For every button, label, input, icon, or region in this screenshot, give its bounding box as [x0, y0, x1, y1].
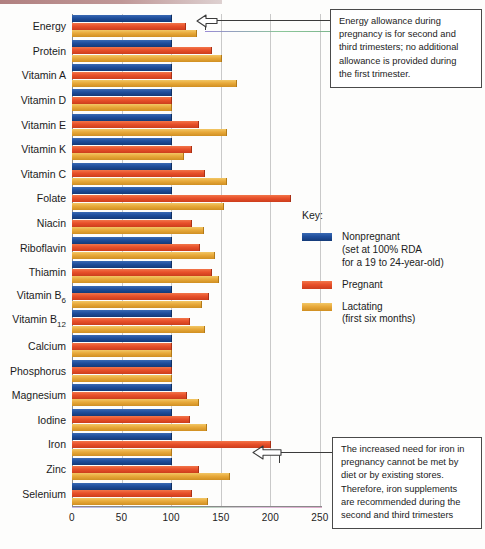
bar-lactating-calcium: [72, 350, 172, 357]
legend-item-lactating[interactable]: Lactating(first six months): [302, 301, 444, 327]
legend-swatch-lactating: [302, 303, 332, 311]
energy-annotation-note: Energy allowance during pregnancy is for…: [330, 9, 482, 88]
legend-item-pregnant[interactable]: Pregnant: [302, 279, 444, 292]
bar-row: Niacin: [72, 211, 320, 236]
bar-row: Phosphorus: [72, 358, 320, 383]
bar-nonpregnant-vitamin-b6: [72, 286, 172, 293]
row-label-vitamin-k: Vitamin K: [21, 143, 66, 155]
x-tick-label-50: 50: [116, 512, 128, 523]
bar-row: Zinc: [72, 457, 320, 482]
iron-note-line-6: second and third trimesters: [341, 509, 474, 522]
bar-pregnant-folate: [72, 195, 291, 202]
bar-pregnant-niacin: [72, 220, 192, 227]
bar-row: Vitamin C: [72, 162, 320, 187]
x-tick-label-200: 200: [262, 512, 279, 523]
energy-note-line-3: third trimesters; no additional: [339, 41, 474, 54]
iron-leader-line: [279, 452, 333, 453]
x-tick-label-0: 0: [69, 512, 75, 523]
row-label-iodine: Iodine: [37, 414, 66, 426]
bar-lactating-phosphorus: [72, 375, 172, 382]
bar-pregnant-magnesium: [72, 392, 187, 399]
bar-row: Vitamin D: [72, 88, 320, 113]
bar-lactating-vitamin-k: [72, 153, 184, 160]
bar-row: Vitamin A: [72, 63, 320, 88]
energy-note-line-2: pregnancy is for second and: [339, 28, 474, 41]
bar-nonpregnant-vitamin-k: [72, 138, 172, 145]
bar-pregnant-thiamin: [72, 269, 212, 276]
bar-lactating-vitamin-d: [72, 104, 172, 111]
bar-nonpregnant-vitamin-a: [72, 64, 172, 71]
x-tick-label-250: 250: [311, 512, 328, 523]
bar-lactating-selenium: [72, 498, 208, 505]
row-label-vitamin-c: Vitamin C: [21, 168, 66, 180]
bar-nonpregnant-iodine: [72, 409, 172, 416]
iron-note-line-2: pregnancy cannot be met by: [341, 456, 474, 469]
energy-note-line-1: Energy allowance during: [339, 15, 474, 28]
bar-lactating-protein: [72, 55, 222, 62]
bar-row: Vitamin B12: [72, 309, 320, 334]
bar-lactating-iron: [72, 449, 172, 456]
bar-nonpregnant-niacin: [72, 212, 172, 219]
bar-lactating-folate: [72, 203, 224, 210]
row-label-energy: Energy: [33, 20, 66, 32]
bar-pregnant-iodine: [72, 416, 190, 423]
row-label-folate: Folate: [37, 192, 66, 204]
legend-sublabel-nonpregnant-2: for a 19 to 24-year-old): [342, 257, 444, 270]
row-label-protein: Protein: [33, 45, 66, 57]
bar-row: Iodine: [72, 408, 320, 433]
bar-pregnant-vitamin-c: [72, 170, 205, 177]
bar-nonpregnant-phosphorus: [72, 360, 172, 367]
chart-page: EnergyProteinVitamin AVitamin DVitamin E…: [0, 0, 485, 549]
energy-note-line-5: the first trimester.: [339, 68, 474, 81]
iron-note-line-3: diet or by existing stores.: [341, 469, 474, 482]
bar-row: Vitamin E: [72, 112, 320, 137]
bar-row: Vitamin B6: [72, 285, 320, 310]
bar-row: Folate: [72, 186, 320, 211]
row-label-riboflavin: Riboflavin: [20, 242, 66, 254]
legend-label-pregnant: Pregnant: [342, 279, 444, 292]
row-label-selenium: Selenium: [22, 488, 66, 500]
bar-pregnant-iron: [72, 441, 271, 448]
legend-title: Key:: [302, 209, 444, 222]
bar-nonpregnant-vitamin-d: [72, 89, 172, 96]
row-label-vitamin-d: Vitamin D: [21, 94, 66, 106]
bar-lactating-energy: [72, 30, 197, 37]
x-tick-label-100: 100: [163, 512, 180, 523]
iron-note-line-5: are recommended during the: [341, 496, 474, 509]
bar-nonpregnant-vitamin-c: [72, 163, 172, 170]
row-label-vitamin-e: Vitamin E: [21, 119, 66, 131]
legend-swatch-nonpregnant: [302, 233, 332, 241]
bar-pregnant-vitamin-a: [72, 72, 172, 79]
bar-nonpregnant-folate: [72, 187, 172, 194]
energy-arrow-icon: [196, 13, 218, 29]
bar-nonpregnant-thiamin: [72, 261, 172, 268]
legend-sublabel-lactating-1: (first six months): [342, 313, 444, 326]
bar-pregnant-vitamin-b6: [72, 293, 209, 300]
x-tick-label-150: 150: [212, 512, 229, 523]
iron-note-line-4: Therefore, iron supplements: [341, 483, 474, 496]
energy-note-line-4: allowance is provided during: [339, 55, 474, 68]
bar-nonpregnant-vitamin-b12: [72, 310, 172, 317]
bar-lactating-vitamin-b6: [72, 301, 202, 308]
legend-swatch-pregnant: [302, 281, 332, 289]
row-label-zinc: Zinc: [46, 463, 66, 475]
bar-nonpregnant-zinc: [72, 458, 172, 465]
iron-arrow-icon: [252, 444, 282, 461]
legend-item-nonpregnant[interactable]: Nonpregnant(set at 100% RDAfor a 19 to 2…: [302, 231, 444, 269]
plot-area: EnergyProteinVitamin AVitamin DVitamin E…: [72, 14, 320, 506]
bar-nonpregnant-magnesium: [72, 384, 172, 391]
bar-lactating-niacin: [72, 227, 204, 234]
bar-lactating-vitamin-e: [72, 129, 227, 136]
row-label-iron: Iron: [48, 438, 66, 450]
energy-leader-tint: [205, 31, 332, 32]
legend-label-nonpregnant: Nonpregnant: [342, 231, 444, 244]
bar-nonpregnant-vitamin-e: [72, 114, 172, 121]
legend-sublabel-nonpregnant-1: (set at 100% RDA: [342, 244, 444, 257]
bar-lactating-iodine: [72, 424, 207, 431]
row-label-vitamin-b6: Vitamin B6: [17, 289, 66, 304]
bar-pregnant-vitamin-d: [72, 97, 172, 104]
bar-nonpregnant-riboflavin: [72, 237, 172, 244]
top-decorative-stripe: [0, 0, 222, 4]
bar-nonpregnant-calcium: [72, 335, 172, 342]
bar-row: Calcium: [72, 334, 320, 359]
